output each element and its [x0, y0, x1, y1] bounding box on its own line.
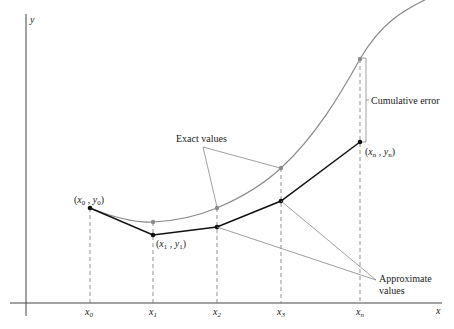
dashed-guides [90, 59, 360, 303]
approximate-values-line1: Approximate [379, 273, 432, 285]
exact-values-label: Exact values [176, 133, 227, 144]
tick-x1: x1 [149, 306, 157, 321]
cumulative-error-label: Cumulative error [371, 95, 440, 106]
point-label-xn-yn: (xn , yn) [365, 146, 395, 161]
approx-leader-lines [217, 201, 376, 280]
cumulative-error-bracket [362, 58, 369, 142]
tick-x2: x2 [213, 306, 221, 321]
y-axis-label: y [30, 14, 34, 25]
tick-xn: xn [356, 306, 364, 321]
approximate-values-label: Approximate values [379, 273, 432, 297]
exact-curve [90, 0, 442, 222]
x-axis-label: x [436, 305, 440, 316]
tick-x3: x3 [277, 306, 285, 321]
point-label-x0-y0: (x0 , y0) [74, 194, 104, 209]
approx-points [88, 140, 363, 238]
approx-polyline [90, 142, 360, 235]
approximate-values-line2: values [379, 285, 432, 297]
tick-x0: x0 [85, 306, 93, 321]
euler-method-diagram: y x x0 x1 x2 x3 xn (x0 , y0) (x1 , y1) (… [0, 0, 454, 329]
point-label-x1-y1: (x1 , y1) [156, 238, 186, 253]
exact-leader-lines [203, 147, 280, 207]
